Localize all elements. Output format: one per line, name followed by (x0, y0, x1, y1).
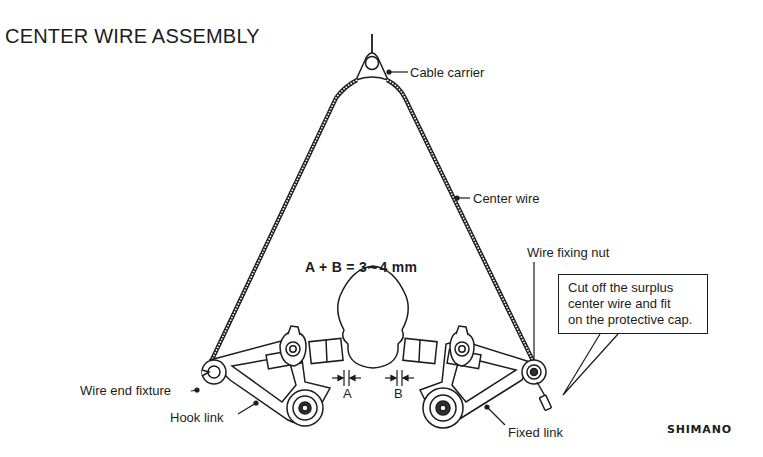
label-cable-carrier: Cable carrier (410, 66, 484, 79)
callout-line: center wire and fit (568, 296, 707, 312)
gap-markers (332, 370, 414, 386)
clearance-formula: A + B = 3∼4 mm (305, 260, 417, 274)
callout-tail (563, 334, 618, 395)
label-hook-link: Hook link (170, 411, 223, 424)
diagram-canvas: CENTER WIRE ASSEMBLY Cable carrier Cente… (0, 0, 763, 457)
tire-outline (338, 266, 409, 368)
callout-line: on the protective cap. (568, 312, 707, 328)
label-gap-a: A (343, 387, 352, 400)
label-center-wire: Center wire (473, 192, 539, 205)
label-fixed-link: Fixed link (508, 426, 563, 439)
label-wire-end-fixture: Wire end fixture (80, 384, 171, 397)
cable-carrier (356, 34, 388, 80)
right-brake-arm (403, 326, 552, 428)
callout-note: Cut off the surplus center wire and fit … (558, 274, 708, 334)
brand-logo: SHIMANO (667, 424, 732, 435)
callout-line: Cut off the surplus (568, 280, 707, 296)
diagram-title: CENTER WIRE ASSEMBLY (5, 26, 260, 46)
label-wire-fixing-nut: Wire fixing nut (527, 246, 609, 259)
label-gap-b: B (394, 387, 403, 400)
